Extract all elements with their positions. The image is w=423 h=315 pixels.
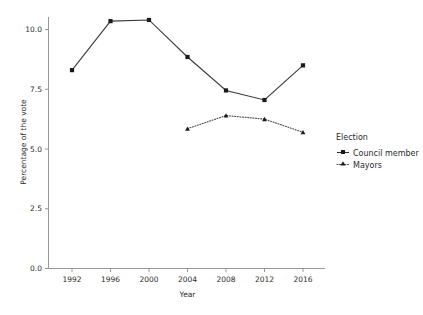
- y-axis-title: Percentage of the vote: [19, 99, 28, 185]
- x-axis-title: Year: [179, 290, 197, 299]
- chart-background: [0, 0, 423, 315]
- legend-marker-square: [341, 150, 345, 154]
- line-chart: 0.0 2.5 5.0 7.5 10.0 1992 1996 2000 2004…: [0, 0, 423, 315]
- y-tick-label-3: 7.5: [30, 85, 42, 94]
- data-point[interactable]: [108, 19, 112, 23]
- legend-title: Election: [336, 133, 368, 142]
- y-tick-label-1: 2.5: [30, 204, 42, 213]
- x-tick-label-2016: 2016: [293, 275, 312, 284]
- data-point[interactable]: [70, 68, 74, 72]
- x-tick-label-2008: 2008: [216, 275, 235, 284]
- x-tick-label-1992: 1992: [62, 275, 81, 284]
- x-tick-label-1996: 1996: [101, 275, 120, 284]
- data-point[interactable]: [224, 88, 228, 92]
- y-tick-label-2: 5.0: [30, 145, 42, 154]
- x-tick-label-2004: 2004: [178, 275, 197, 284]
- y-tick-label-0: 0.0: [30, 264, 42, 273]
- chart-container: 0.0 2.5 5.0 7.5 10.0 1992 1996 2000 2004…: [0, 0, 423, 315]
- data-point[interactable]: [262, 98, 266, 102]
- y-tick-label-4: 10.0: [25, 25, 42, 34]
- data-point[interactable]: [301, 63, 305, 67]
- data-point[interactable]: [185, 55, 189, 59]
- legend-label-council-member: Council member: [353, 149, 420, 158]
- legend-label-mayors: Mayors: [353, 161, 382, 170]
- data-point[interactable]: [147, 18, 151, 22]
- x-tick-label-2000: 2000: [139, 275, 158, 284]
- x-tick-label-2012: 2012: [255, 275, 274, 284]
